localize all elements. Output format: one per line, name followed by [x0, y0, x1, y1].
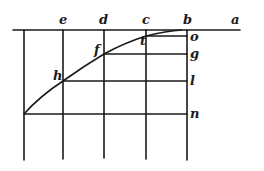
- label-l: l: [190, 73, 195, 88]
- label-g: g: [190, 46, 199, 61]
- label-b: b: [183, 12, 192, 27]
- label-c: c: [142, 12, 150, 27]
- label-t: t: [140, 33, 146, 48]
- label-n: n: [190, 106, 199, 121]
- label-h: h: [53, 68, 62, 83]
- label-f: f: [93, 42, 102, 57]
- curve: [24, 30, 182, 114]
- label-e: e: [59, 12, 67, 27]
- label-o: o: [190, 29, 199, 44]
- geometric-diagram: e d c b a h f t o g l n: [0, 0, 264, 171]
- label-a: a: [231, 12, 239, 27]
- label-d: d: [99, 12, 108, 27]
